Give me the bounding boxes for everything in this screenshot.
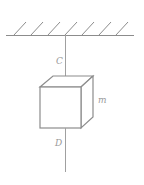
label-m: m [98, 95, 107, 105]
label-c: C [56, 56, 63, 66]
ceiling-hatching [14, 22, 128, 35]
ceiling [6, 22, 134, 36]
diagram-canvas: C m D [0, 0, 144, 185]
block-mass [40, 76, 93, 128]
label-d: D [54, 138, 62, 148]
block-front-face [40, 87, 81, 128]
